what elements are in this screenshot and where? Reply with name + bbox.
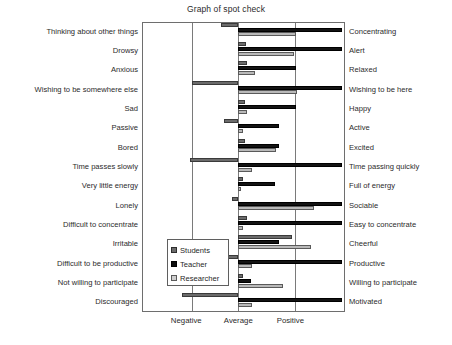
bar-researcher	[238, 32, 295, 36]
bar-researcher	[238, 110, 246, 114]
category-label-left: Time passes slowly	[0, 162, 138, 171]
axis-tick-negative: Negative	[171, 316, 202, 325]
bar-group	[142, 41, 345, 60]
bar-researcher	[238, 284, 282, 288]
bar-students	[238, 100, 245, 104]
axis-tick-positive: Positive	[277, 316, 304, 325]
category-label-left: Sad	[0, 104, 138, 113]
bar-researcher	[238, 168, 252, 172]
category-label-right: Time passing quickly	[349, 162, 452, 171]
legend-label-teacher: Teacher	[180, 260, 207, 269]
bar-teacher	[238, 124, 279, 128]
bar-group	[142, 22, 345, 41]
category-label-left: Bored	[0, 143, 138, 152]
bar-group	[142, 80, 345, 99]
bar-researcher	[238, 264, 252, 268]
bar-group	[142, 196, 345, 215]
category-label-right: Alert	[349, 46, 452, 55]
bar-teacher	[238, 182, 274, 186]
category-label-left: Very little energy	[0, 181, 138, 190]
bar-teacher	[238, 163, 342, 167]
right-category-labels: ConcentratingAlertRelaxedWishing to be h…	[349, 22, 452, 312]
category-label-right: Willing to participate	[349, 278, 452, 287]
category-label-right: Full of energy	[349, 181, 452, 190]
bar-students	[221, 23, 238, 27]
bar-researcher	[238, 129, 243, 133]
bar-students	[232, 197, 238, 201]
left-category-labels: Thinking about other thingsDrowsyAnxious…	[0, 22, 138, 312]
bar-researcher	[238, 187, 241, 191]
category-label-right: Productive	[349, 259, 452, 268]
category-label-right: Easy to concentrate	[349, 220, 452, 229]
bar-researcher	[238, 206, 313, 210]
bar-students	[238, 139, 244, 143]
category-label-left: Lonely	[0, 201, 138, 210]
category-label-left: Passive	[0, 123, 138, 132]
bar-researcher	[238, 245, 311, 249]
chart-title: Graph of spot check	[0, 4, 452, 14]
bar-researcher	[238, 303, 252, 307]
bar-teacher	[238, 240, 279, 244]
category-label-right: Wishing to be here	[349, 85, 452, 94]
bar-researcher	[238, 52, 294, 56]
bar-students	[238, 42, 245, 46]
legend-label-researcher: Researcher	[180, 274, 219, 283]
bar-students	[192, 81, 238, 85]
category-label-left: Thinking about other things	[0, 27, 138, 36]
bar-students	[238, 235, 292, 239]
bar-researcher	[238, 71, 255, 75]
bar-teacher	[238, 144, 279, 148]
legend-item-teacher: Teacher	[171, 257, 225, 271]
category-label-left: Drowsy	[0, 46, 138, 55]
category-label-right: Motivated	[349, 297, 452, 306]
category-label-left: Wishing to be somewhere else	[0, 85, 138, 94]
bar-teacher	[238, 298, 342, 302]
legend-label-students: Students	[180, 246, 210, 255]
category-label-left: Difficult to concentrate	[0, 220, 138, 229]
category-label-right: Excited	[349, 143, 452, 152]
bar-students	[182, 293, 238, 297]
legend-item-students: Students	[171, 243, 225, 257]
bar-teacher	[238, 221, 342, 225]
bar-teacher	[238, 86, 342, 90]
legend-item-researcher: Researcher	[171, 271, 225, 285]
legend-swatch-students-icon	[171, 247, 177, 253]
bar-students	[238, 177, 243, 181]
bar-students	[238, 216, 247, 220]
bar-group	[142, 215, 345, 234]
category-label-right: Active	[349, 123, 452, 132]
legend: Students Teacher Researcher	[167, 239, 229, 286]
category-label-left: Anxious	[0, 65, 138, 74]
category-label-right: Sociable	[349, 201, 452, 210]
axis-tick-average: Average	[224, 316, 253, 325]
bar-researcher	[238, 148, 275, 152]
bar-group	[142, 119, 345, 138]
legend-swatch-researcher-icon	[171, 275, 177, 281]
category-label-left: Discouraged	[0, 297, 138, 306]
bar-group	[142, 293, 345, 312]
bar-students	[190, 158, 238, 162]
category-label-right: Concentrating	[349, 27, 452, 36]
bar-researcher	[238, 90, 296, 94]
bar-teacher	[238, 28, 342, 32]
bar-group	[142, 177, 345, 196]
bar-group	[142, 99, 345, 118]
category-label-right: Cheerful	[349, 239, 452, 248]
category-label-right: Relaxed	[349, 65, 452, 74]
bar-teacher	[238, 66, 295, 70]
bar-teacher	[238, 105, 295, 109]
bar-group	[142, 157, 345, 176]
bar-researcher	[238, 226, 243, 230]
bar-students	[238, 61, 247, 65]
bar-group	[142, 138, 345, 157]
legend-swatch-teacher-icon	[171, 261, 177, 267]
bar-teacher	[238, 260, 342, 264]
bar-students	[238, 274, 243, 278]
bar-teacher	[238, 279, 251, 283]
category-label-left: Irritable	[0, 239, 138, 248]
bar-students	[224, 119, 239, 123]
bar-group	[142, 61, 345, 80]
category-label-right: Happy	[349, 104, 452, 113]
category-label-left: Not willing to participate	[0, 278, 138, 287]
spot-check-chart: Graph of spot check Thinking about other…	[0, 0, 452, 345]
